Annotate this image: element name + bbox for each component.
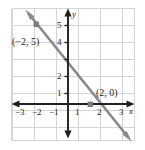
coordinate-plane-figure: −3 −2 −1 1 2 3 5 4 2 1 y x (−2, 5) (2, 0… [0, 0, 145, 150]
y-tick-label-5: 5 [57, 21, 62, 30]
y-tick-label-2: 2 [57, 72, 62, 81]
graph-canvas [0, 0, 145, 150]
x-tick-label-3: 3 [119, 108, 124, 117]
axis-arrowheads [12, 9, 135, 139]
y-tick-label-1: 1 [57, 89, 62, 98]
x-tick-label-neg3: −3 [15, 108, 25, 117]
x-tick-label-neg2: −2 [32, 108, 42, 117]
y-tick-label-4: 4 [57, 38, 62, 47]
x-axis-name: x [129, 107, 133, 116]
x-tick-label-neg1: −1 [49, 108, 59, 117]
x-tick-label-1: 1 [75, 108, 80, 117]
data-point-markers [34, 22, 93, 107]
marker-point-a [34, 22, 39, 27]
x-tick-label-2: 2 [97, 108, 102, 117]
marker-point-b [88, 102, 93, 107]
point-label-b: (2, 0) [96, 88, 118, 98]
y-axis-name: y [72, 10, 76, 19]
point-label-a: (−2, 5) [12, 37, 39, 47]
